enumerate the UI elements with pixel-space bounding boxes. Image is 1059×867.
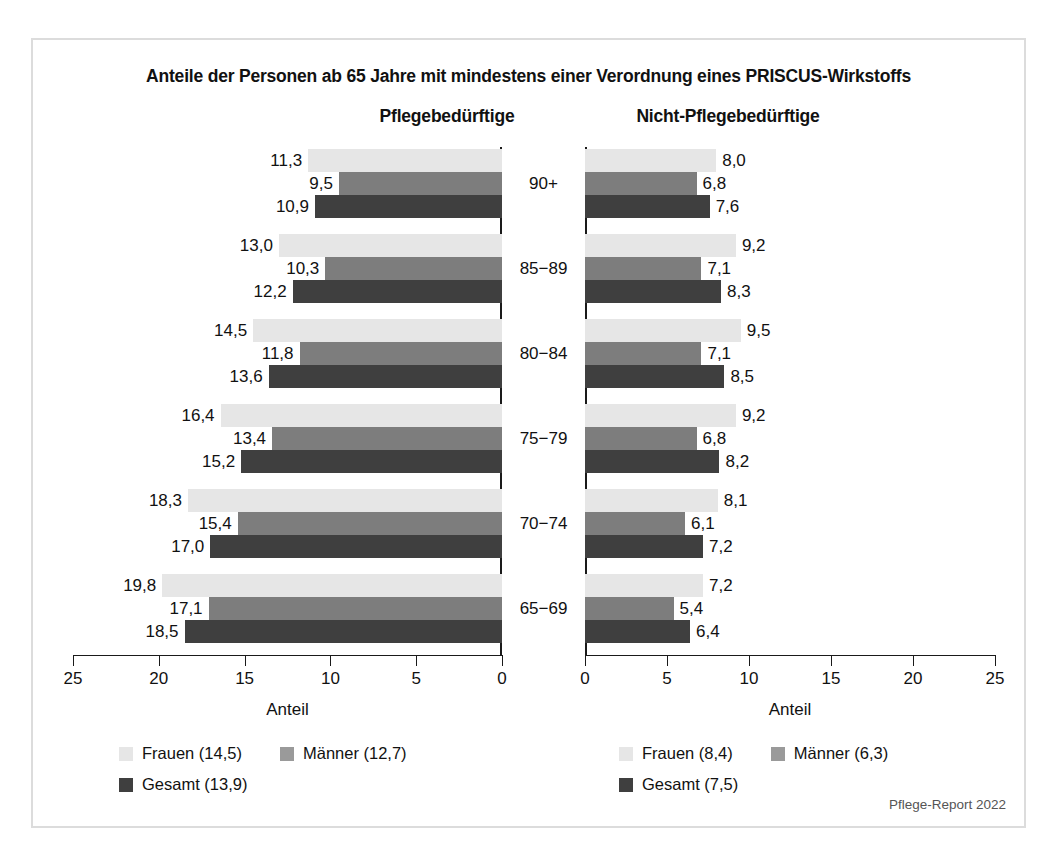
bar-gesamt[interactable]: 18,5: [185, 620, 502, 643]
bar-maenner[interactable]: 6,8: [585, 172, 697, 195]
bar-maenner[interactable]: 10,3: [325, 257, 502, 280]
bar-value-label: 15,4: [199, 514, 232, 534]
axis-tick-label: 0: [497, 669, 506, 689]
bar-gesamt[interactable]: 12,2: [293, 280, 502, 303]
bar-value-label: 17,0: [171, 537, 204, 557]
bar-row: 7,2: [585, 574, 995, 597]
bar-maenner[interactable]: 9,5: [339, 172, 502, 195]
bar-frauen[interactable]: 11,3: [308, 149, 502, 172]
bar-gesamt[interactable]: 15,2: [241, 450, 502, 473]
bar-gesamt[interactable]: 17,0: [210, 535, 502, 558]
bar-group: 13,010,312,2: [73, 234, 502, 304]
legend-swatch-frauen: [119, 747, 133, 761]
legend-label: Gesamt (13,9): [142, 775, 247, 794]
legend-label: Männer (6,3): [794, 744, 888, 763]
legend-swatch-gesamt: [119, 778, 133, 792]
bar-row: 12,2: [73, 280, 502, 303]
bar-maenner[interactable]: 13,4: [272, 427, 502, 450]
legend-row: Frauen (14,5)Männer (12,7): [119, 738, 539, 769]
bar-row: 19,8: [73, 574, 502, 597]
bar-gesamt[interactable]: 13,6: [269, 365, 502, 388]
bar-frauen[interactable]: 8,0: [585, 149, 716, 172]
bar-row: 13,4: [73, 427, 502, 450]
bar-row: 8,1: [585, 489, 995, 512]
bar-row: 8,0: [585, 149, 995, 172]
bar-value-label: 6,4: [696, 622, 720, 642]
bar-value-label: 7,2: [709, 537, 733, 557]
legend-item[interactable]: Männer (12,7): [280, 744, 407, 763]
bar-value-label: 7,1: [707, 344, 731, 364]
axis-title-left: Anteil: [73, 700, 502, 720]
axis-tick: [585, 655, 586, 666]
bar-maenner[interactable]: 17,1: [209, 597, 502, 620]
bar-row: 13,6: [73, 365, 502, 388]
age-group-label: 85−89: [502, 234, 585, 304]
bar-value-label: 8,2: [725, 452, 749, 472]
bar-value-label: 13,0: [240, 236, 273, 256]
figure-frame: Anteile der Personen ab 65 Jahre mit min…: [31, 38, 1026, 828]
bar-frauen[interactable]: 8,1: [585, 489, 718, 512]
axis-tick-label: 5: [662, 669, 671, 689]
bar-value-label: 8,5: [730, 367, 754, 387]
bar-maenner[interactable]: 15,4: [238, 512, 502, 535]
bar-value-label: 19,8: [123, 576, 156, 596]
bar-row: 9,2: [585, 234, 995, 257]
bar-value-label: 6,1: [691, 514, 715, 534]
age-group-label: 70−74: [502, 489, 585, 559]
source-note: Pflege-Report 2022: [889, 797, 1006, 812]
bar-frauen[interactable]: 7,2: [585, 574, 703, 597]
bar-gesamt[interactable]: 8,5: [585, 365, 724, 388]
bar-gesamt[interactable]: 7,2: [585, 535, 703, 558]
bar-gesamt[interactable]: 10,9: [315, 195, 502, 218]
bar-group: 8,16,17,2: [585, 489, 995, 559]
bar-value-label: 13,6: [230, 367, 263, 387]
axis-tick-label: 10: [740, 669, 759, 689]
legend-item[interactable]: Frauen (14,5): [119, 744, 242, 763]
bar-value-label: 5,4: [680, 599, 704, 619]
panel-heading-pflegebeduerftige: Pflegebedürftige: [332, 106, 562, 127]
bar-maenner[interactable]: 6,8: [585, 427, 697, 450]
legend-swatch-maenner: [280, 747, 294, 761]
bar-frauen[interactable]: 19,8: [162, 574, 502, 597]
age-group-labels: 90+85−8980−8475−7970−7465−69: [502, 145, 585, 655]
axis-tick: [667, 655, 668, 666]
legend-item[interactable]: Gesamt (13,9): [119, 775, 247, 794]
bar-maenner[interactable]: 7,1: [585, 257, 701, 280]
bar-frauen[interactable]: 18,3: [188, 489, 502, 512]
legend-label: Männer (12,7): [303, 744, 407, 763]
legend-label: Gesamt (7,5): [642, 775, 738, 794]
bar-frauen[interactable]: 9,2: [585, 234, 736, 257]
axis-tick-label: 5: [411, 669, 420, 689]
bar-gesamt[interactable]: 8,2: [585, 450, 719, 473]
bar-maenner[interactable]: 7,1: [585, 342, 701, 365]
bar-frauen[interactable]: 9,2: [585, 404, 736, 427]
bar-frauen[interactable]: 14,5: [253, 319, 502, 342]
bar-maenner[interactable]: 11,8: [300, 342, 502, 365]
bar-value-label: 14,5: [214, 321, 247, 341]
bar-row: 15,4: [73, 512, 502, 535]
bar-group: 9,57,18,5: [585, 319, 995, 389]
plot-area-left: 11,39,510,913,010,312,214,511,813,616,41…: [73, 145, 502, 655]
x-axis-right: Anteil 0510152025: [585, 655, 995, 667]
legend-label: Frauen (14,5): [142, 744, 242, 763]
legend-right: Frauen (8,4)Männer (6,3)Gesamt (7,5): [619, 738, 1039, 800]
bar-value-label: 18,3: [149, 491, 182, 511]
bar-group: 14,511,813,6: [73, 319, 502, 389]
bar-maenner[interactable]: 6,1: [585, 512, 685, 535]
bar-value-label: 18,5: [145, 622, 178, 642]
bar-frauen[interactable]: 9,5: [585, 319, 741, 342]
bar-gesamt[interactable]: 7,6: [585, 195, 710, 218]
bar-gesamt[interactable]: 8,3: [585, 280, 721, 303]
bar-frauen[interactable]: 16,4: [221, 404, 502, 427]
bar-value-label: 11,8: [262, 344, 294, 364]
legend-item[interactable]: Frauen (8,4): [619, 744, 733, 763]
legend-item[interactable]: Männer (6,3): [771, 744, 888, 763]
legend-item[interactable]: Gesamt (7,5): [619, 775, 738, 794]
bar-group: 9,27,18,3: [585, 234, 995, 304]
bar-row: 10,9: [73, 195, 502, 218]
bar-gesamt[interactable]: 6,4: [585, 620, 690, 643]
bar-maenner[interactable]: 5,4: [585, 597, 674, 620]
chart-title: Anteile der Personen ab 65 Jahre mit min…: [33, 66, 1024, 87]
axis-tick: [502, 655, 503, 666]
bar-frauen[interactable]: 13,0: [279, 234, 502, 257]
